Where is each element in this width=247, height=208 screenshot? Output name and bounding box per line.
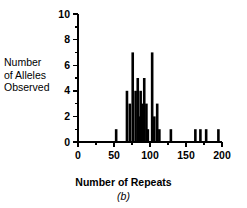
y-tick-label: 10 (58, 8, 70, 20)
figure-caption: (b) (0, 190, 247, 202)
y-axis-label-line3: Observed (4, 81, 50, 93)
y-tick-label: 6 (64, 59, 70, 71)
histogram-bar (170, 129, 173, 142)
y-axis-label: Numberof AllelesObserved (4, 56, 62, 94)
x-tick-label: 150 (177, 149, 195, 161)
figure-caption-text: (b) (117, 190, 130, 202)
histogram-bar (147, 129, 150, 142)
x-axis-label: Number of Repeats (0, 176, 247, 188)
x-tick-label: 50 (108, 149, 120, 161)
y-tick-label: 4 (64, 84, 70, 96)
histogram-bar (126, 91, 129, 142)
histogram-bar (158, 129, 161, 142)
histogram-bar (199, 129, 202, 142)
histogram-bar (217, 129, 220, 142)
y-tick-label: 8 (64, 33, 70, 45)
y-tick-label: 0 (64, 136, 70, 148)
histogram-bar (129, 104, 132, 142)
y-axis-label-line1: Number (4, 56, 41, 68)
x-tick-label: 100 (141, 149, 159, 161)
histogram-bar (153, 116, 156, 142)
bar-series (115, 52, 220, 142)
x-tick-label: 0 (75, 149, 81, 161)
histogram-bar (194, 129, 197, 142)
histogram-figure: 0501001502000246810 Numberof AllelesObse… (0, 0, 247, 208)
y-axis-label-line2: of Alleles (4, 69, 46, 81)
histogram-bar (131, 52, 134, 142)
x-tick-label: 200 (213, 149, 231, 161)
histogram-bar (205, 129, 208, 142)
y-tick-label: 2 (64, 110, 70, 122)
histogram-bar (115, 129, 118, 142)
